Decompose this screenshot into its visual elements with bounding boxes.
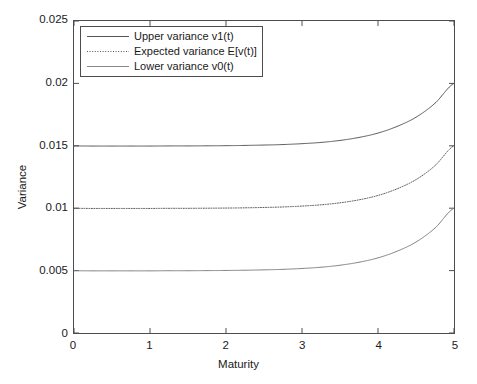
legend-entry-upper-variance: Upper variance v1(t) <box>86 29 262 44</box>
x-tick-label-5: 5 <box>452 340 458 352</box>
x-tick-label-3: 3 <box>299 340 305 352</box>
y-tick-label-0: 0 <box>18 328 68 340</box>
y-axis-title-wrapper: Variance <box>12 177 32 197</box>
y-tick-label-0015: 0.015 <box>18 140 68 152</box>
series-line-3 <box>74 208 454 271</box>
x-tick-label-4: 4 <box>375 340 381 352</box>
y-tick-label-0005: 0.005 <box>18 265 68 277</box>
variance-chart-figure: 0.025 0.02 0.015 0.01 0.005 0 0 1 2 3 4 … <box>0 0 477 384</box>
legend-entry-expected-variance: Expected variance E[v(t)] <box>86 44 262 59</box>
x-tick-label-1: 1 <box>146 340 152 352</box>
series-line-2 <box>74 146 454 209</box>
legend-label-lower-variance: Lower variance v0(t) <box>134 61 234 72</box>
legend-label-expected-variance: Expected variance E[v(t)] <box>134 46 257 57</box>
y-tick-label-002: 0.02 <box>18 77 68 89</box>
legend-box: Upper variance v1(t) Expected variance E… <box>80 26 263 77</box>
series-line-1 <box>74 83 454 146</box>
legend-line-sample-dotted <box>86 46 130 57</box>
y-tick-label-0025: 0.025 <box>18 14 68 26</box>
legend-entry-lower-variance: Lower variance v0(t) <box>86 59 262 74</box>
legend-label-upper-variance: Upper variance v1(t) <box>134 31 234 42</box>
legend-line-sample-solid-2 <box>86 61 130 72</box>
x-axis-title: Maturity <box>0 358 477 370</box>
y-axis-title: Variance <box>16 165 28 210</box>
legend-line-sample-solid <box>86 31 130 42</box>
x-tick-label-0: 0 <box>70 340 76 352</box>
x-tick-label-2: 2 <box>223 340 229 352</box>
